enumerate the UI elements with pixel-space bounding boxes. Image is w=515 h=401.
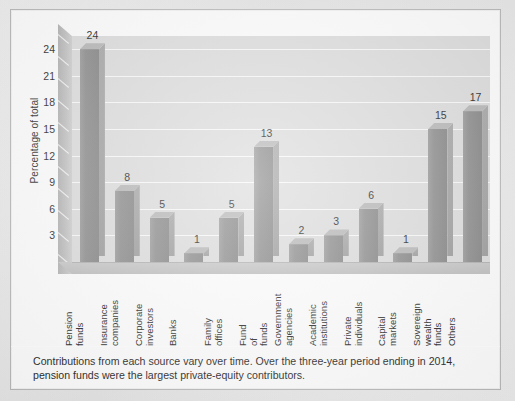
y-axis-tick-label: 9 bbox=[33, 176, 55, 188]
wall-depth-line bbox=[58, 232, 69, 242]
bar-value-label: 15 bbox=[425, 109, 456, 121]
bar bbox=[463, 111, 482, 262]
left-wall bbox=[58, 24, 72, 274]
bar-front-face bbox=[324, 235, 343, 262]
bar-value-label: 17 bbox=[460, 91, 491, 103]
y-axis-ticks: 3691215182124 bbox=[29, 10, 55, 346]
x-axis-category-label: Government agencies bbox=[273, 276, 294, 346]
bar bbox=[393, 253, 412, 262]
bar bbox=[80, 49, 99, 262]
wall-depth-line bbox=[58, 56, 69, 66]
x-axis-category-label: Pension funds bbox=[64, 276, 85, 346]
baseline bbox=[72, 262, 490, 263]
x-axis-category-label: Private individuals bbox=[343, 276, 364, 346]
caption-divider bbox=[11, 346, 500, 347]
bar-side-face bbox=[238, 212, 244, 256]
bar-side-face bbox=[447, 123, 453, 256]
x-axis-category-label: Corporate investors bbox=[134, 276, 155, 346]
bar-front-face bbox=[115, 191, 134, 262]
x-axis-category-label: Banks bbox=[168, 276, 179, 346]
bar bbox=[219, 218, 238, 262]
bar-front-face bbox=[184, 253, 203, 262]
bar-value-label: 2 bbox=[286, 224, 317, 236]
bar-side-face bbox=[99, 43, 105, 256]
bar-front-face bbox=[463, 111, 482, 262]
wall-depth-line bbox=[58, 188, 69, 198]
scanned-page: Percentage of total 3691215182124 248515… bbox=[0, 0, 515, 401]
x-axis-category-label: Family offices bbox=[203, 276, 224, 346]
bar bbox=[254, 147, 273, 262]
bar bbox=[150, 218, 169, 262]
wall-depth-line bbox=[58, 100, 69, 110]
y-axis-tick-label: 24 bbox=[33, 43, 55, 55]
bar-value-label: 1 bbox=[390, 233, 421, 245]
figure-panel: Percentage of total 3691215182124 248515… bbox=[10, 9, 501, 390]
bar-front-face bbox=[150, 218, 169, 262]
x-axis-category-label: Sovereign wealth funds bbox=[412, 276, 444, 346]
wall-depth-line bbox=[58, 210, 69, 220]
x-axis-category-label: Insurance companies bbox=[99, 276, 120, 346]
x-axis-category-label: Capital markets bbox=[377, 276, 398, 346]
y-axis-tick-label: 18 bbox=[33, 96, 55, 108]
floor bbox=[58, 262, 490, 274]
wall-depth-line bbox=[58, 144, 69, 154]
bar bbox=[428, 129, 447, 262]
x-axis-category-label: Academic institutions bbox=[308, 276, 329, 346]
bar-chart: Percentage of total 3691215182124 248515… bbox=[11, 10, 500, 346]
plot-area: 2485151323611517 bbox=[58, 24, 490, 274]
bar-value-label: 8 bbox=[112, 171, 143, 183]
bar-value-label: 5 bbox=[216, 198, 247, 210]
wall-depth-line bbox=[58, 78, 69, 88]
bar-side-face bbox=[134, 185, 140, 256]
bar-front-face bbox=[428, 129, 447, 262]
x-axis-category-label: Others bbox=[447, 276, 458, 346]
bar bbox=[184, 253, 203, 262]
bar-value-label: 5 bbox=[147, 198, 178, 210]
x-axis-labels: Pension fundsInsurance companiesCorporat… bbox=[58, 276, 490, 346]
bar-front-face bbox=[80, 49, 99, 262]
bar-side-face bbox=[169, 212, 175, 256]
bar bbox=[289, 244, 308, 262]
bar-front-face bbox=[359, 209, 378, 262]
bar-side-face bbox=[482, 105, 488, 256]
bar-side-face bbox=[378, 203, 384, 256]
wall-depth-line bbox=[58, 122, 69, 132]
y-axis-tick-label: 21 bbox=[33, 70, 55, 82]
bar bbox=[115, 191, 134, 262]
wall-depth-line bbox=[58, 166, 69, 176]
bar bbox=[359, 209, 378, 262]
bar-value-label: 24 bbox=[77, 29, 108, 41]
bar-value-label: 6 bbox=[356, 189, 387, 201]
y-axis-tick-label: 12 bbox=[33, 150, 55, 162]
bar-front-face bbox=[254, 147, 273, 262]
y-axis-tick-label: 15 bbox=[33, 123, 55, 135]
bar-value-label: 1 bbox=[181, 233, 212, 245]
bar-front-face bbox=[289, 244, 308, 262]
bar-series: 2485151323611517 bbox=[72, 36, 490, 262]
y-axis-tick-label: 3 bbox=[33, 229, 55, 241]
figure-caption: Contributions from each source vary over… bbox=[33, 354, 485, 382]
bar-value-label: 13 bbox=[251, 127, 282, 139]
wall-depth-line bbox=[58, 34, 69, 44]
bar-side-face bbox=[273, 141, 279, 256]
bar-front-face bbox=[219, 218, 238, 262]
bar bbox=[324, 235, 343, 262]
y-axis-tick-label: 6 bbox=[33, 203, 55, 215]
bar-value-label: 3 bbox=[321, 215, 352, 227]
bar-front-face bbox=[393, 253, 412, 262]
x-axis-category-label: Fund of funds bbox=[238, 276, 270, 346]
